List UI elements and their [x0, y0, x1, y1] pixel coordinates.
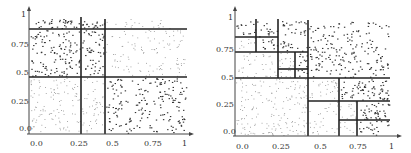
data-point	[40, 36, 41, 37]
data-point	[312, 31, 313, 32]
data-point	[279, 79, 280, 80]
data-point	[241, 101, 242, 102]
data-point	[34, 110, 35, 111]
tick-labels: 10.750.50.250.00.00.250.50.751	[11, 10, 187, 148]
data-point	[380, 85, 381, 86]
data-point	[59, 35, 60, 36]
data-point	[327, 81, 328, 82]
data-point	[300, 32, 301, 33]
data-point	[96, 102, 97, 103]
data-point	[142, 94, 143, 95]
data-point	[271, 62, 272, 63]
data-point	[94, 70, 95, 71]
data-point	[288, 45, 289, 46]
data-point	[384, 74, 385, 75]
data-point	[179, 44, 180, 45]
data-point	[348, 71, 349, 72]
data-point	[351, 53, 352, 54]
data-point	[322, 61, 323, 62]
data-point	[64, 71, 65, 72]
data-point	[95, 25, 96, 26]
data-point	[157, 86, 158, 87]
data-point	[382, 56, 383, 57]
data-point	[95, 98, 96, 99]
data-point	[39, 80, 40, 81]
data-point	[263, 56, 264, 57]
data-point	[264, 49, 265, 50]
data-point	[275, 84, 276, 85]
data-point	[162, 114, 163, 115]
data-point	[344, 27, 345, 28]
data-point	[244, 118, 245, 119]
y-tick-label: 0.25	[11, 97, 29, 106]
data-point	[39, 71, 40, 72]
data-point	[163, 40, 164, 41]
data-point	[316, 50, 317, 51]
data-point	[108, 107, 109, 108]
data-point	[363, 128, 364, 129]
data-point	[179, 102, 180, 103]
data-point	[73, 105, 74, 106]
data-point	[375, 70, 376, 71]
data-point	[342, 60, 343, 61]
data-point	[35, 75, 36, 76]
data-point	[268, 33, 269, 34]
data-point	[274, 48, 275, 49]
data-point	[319, 54, 320, 55]
data-point	[61, 72, 62, 73]
data-point	[77, 73, 78, 74]
data-point	[126, 22, 127, 23]
data-point	[93, 51, 94, 52]
data-point	[273, 45, 274, 46]
data-point	[288, 88, 289, 89]
data-point	[263, 42, 264, 43]
data-point	[276, 80, 277, 81]
data-point	[254, 76, 255, 77]
data-point	[262, 102, 263, 103]
axes	[233, 6, 402, 138]
data-point	[239, 70, 240, 71]
data-point	[366, 117, 367, 118]
data-point	[255, 85, 256, 86]
data-point	[276, 109, 277, 110]
data-point	[380, 98, 381, 99]
data-point	[336, 85, 337, 86]
data-point	[53, 111, 54, 112]
data-point	[119, 103, 120, 104]
data-point	[87, 98, 88, 99]
data-point	[299, 118, 300, 119]
data-point	[140, 70, 141, 71]
data-point	[313, 132, 314, 133]
data-point	[59, 21, 60, 22]
data-point	[173, 87, 174, 88]
data-point	[121, 86, 122, 87]
data-point	[374, 129, 375, 130]
data-point	[291, 24, 292, 25]
data-point	[345, 122, 346, 123]
data-point	[358, 83, 359, 84]
data-point	[290, 70, 291, 71]
data-point	[138, 110, 139, 111]
data-point	[298, 70, 299, 71]
data-point	[320, 96, 321, 97]
data-point	[64, 92, 65, 93]
data-point	[63, 129, 64, 130]
data-point	[69, 31, 70, 32]
data-point	[145, 110, 146, 111]
data-point	[314, 127, 315, 128]
data-point	[126, 66, 127, 67]
data-point	[334, 98, 335, 99]
data-point	[373, 73, 374, 74]
data-point	[271, 116, 272, 117]
data-point	[86, 113, 87, 114]
data-point	[177, 60, 178, 61]
data-point	[301, 131, 302, 132]
data-point	[384, 98, 385, 99]
data-point	[118, 67, 119, 68]
data-point	[263, 69, 264, 70]
data-point	[121, 80, 122, 81]
data-point	[256, 56, 257, 57]
data-point	[351, 54, 352, 55]
data-point	[369, 23, 370, 24]
data-point	[374, 105, 375, 106]
